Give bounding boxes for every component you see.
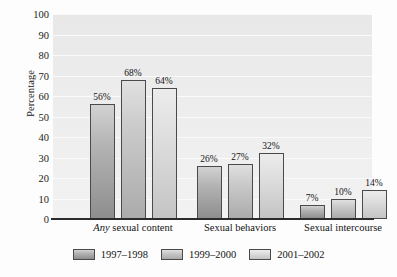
legend-label: 1999–2000 — [189, 249, 236, 260]
bar-group: 26%27%32% — [197, 14, 284, 219]
bar-slot: 56% — [90, 14, 115, 219]
bar — [197, 166, 222, 219]
y-axis-tick-label: 20 — [39, 173, 50, 184]
bar — [121, 80, 146, 219]
legend-item[interactable]: 1997–1998 — [73, 249, 148, 260]
x-axis-category-label: Sexual behaviors — [204, 222, 276, 233]
legend-swatch — [161, 249, 183, 260]
legend-label: 2001–2002 — [277, 249, 324, 260]
bar-slot: 27% — [228, 14, 253, 219]
bar-slot: 14% — [362, 14, 387, 219]
legend-item[interactable]: 2001–2002 — [249, 249, 324, 260]
bar-slot: 68% — [121, 14, 146, 219]
bar-slot: 26% — [197, 14, 222, 219]
bar-value-label: 27% — [231, 152, 248, 162]
y-axis-tick-label: 70 — [39, 70, 50, 81]
bar-value-label: 10% — [334, 187, 351, 197]
y-axis-tick-labels: 1009080706050403020100 — [18, 14, 49, 219]
y-axis-tick-label: 80 — [39, 50, 50, 61]
bar — [362, 190, 387, 219]
legend-label: 1997–1998 — [101, 249, 148, 260]
x-axis-category-label: Sexual intercourse — [304, 222, 382, 233]
y-axis-tick-label: 30 — [39, 152, 50, 163]
bar — [228, 164, 253, 219]
plot-area: 56%68%64%26%27%32%7%10%14% — [53, 14, 372, 219]
y-axis-tick-label: 40 — [39, 132, 50, 143]
bar — [331, 199, 356, 220]
bar-slot: 7% — [300, 14, 325, 219]
bar — [259, 153, 284, 219]
y-axis-tick-label: 0 — [44, 214, 49, 225]
bar-slot: 64% — [152, 14, 177, 219]
bar-value-label: 64% — [155, 76, 172, 86]
y-axis-tick-label: 60 — [39, 91, 50, 102]
bar-slot: 32% — [259, 14, 284, 219]
bar-value-label: 56% — [93, 92, 110, 102]
chart-figure: Percentage 1009080706050403020100 56%68%… — [0, 0, 397, 277]
y-axis-tick-label: 50 — [39, 111, 50, 122]
bar-value-label: 32% — [262, 141, 279, 151]
bar-slot: 10% — [331, 14, 356, 219]
legend-item[interactable]: 1999–2000 — [161, 249, 236, 260]
y-axis-tick-label: 100 — [33, 9, 49, 20]
legend-swatch — [249, 249, 271, 260]
bar — [90, 104, 115, 219]
bar-value-label: 7% — [306, 193, 319, 203]
bar — [300, 205, 325, 219]
chart-legend: 1997–19981999–20002001–2002 — [0, 249, 397, 260]
legend-swatch — [73, 249, 95, 260]
bar-group: 7%10%14% — [300, 14, 387, 219]
x-axis-line — [51, 218, 374, 220]
y-axis-tick-label: 90 — [39, 29, 50, 40]
bar-value-label: 68% — [124, 68, 141, 78]
y-axis-tick-label: 10 — [39, 193, 50, 204]
bar — [152, 88, 177, 219]
bar-value-label: 14% — [365, 178, 382, 188]
bar-value-label: 26% — [200, 154, 217, 164]
bar-group: 56%68%64% — [90, 14, 177, 219]
x-axis-category-label: Any sexual content — [93, 222, 172, 233]
